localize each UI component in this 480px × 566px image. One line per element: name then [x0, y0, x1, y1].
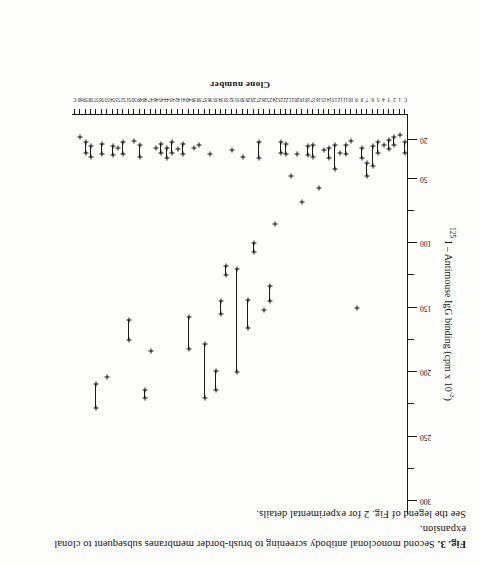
x-tick-label: 58	[89, 97, 94, 103]
y-tick-label: 100	[420, 239, 446, 248]
plus-marker	[186, 314, 191, 319]
x-tick-label: 12	[338, 97, 343, 103]
x-tick	[95, 109, 96, 114]
plus-marker	[387, 146, 392, 151]
x-tick	[150, 109, 151, 114]
x-tick	[231, 109, 232, 114]
plus-marker	[213, 368, 218, 373]
x-tick-label: 20	[295, 97, 300, 103]
y-tick-label: 150	[420, 303, 446, 312]
plus-marker	[349, 139, 354, 144]
y-tick	[408, 436, 417, 437]
plus-marker	[110, 144, 115, 149]
plus-marker	[251, 250, 256, 255]
x-tick-label: 26	[262, 97, 267, 103]
x-tick-label: 48	[143, 97, 148, 103]
x-tick-label: C	[404, 97, 407, 103]
x-tick	[350, 109, 351, 114]
y-tick	[408, 139, 417, 140]
plus-marker	[311, 154, 316, 159]
x-tick-label: 60	[78, 97, 83, 103]
x-tick-label: 49	[137, 97, 142, 103]
plus-marker	[235, 370, 240, 375]
y-tick-minor	[408, 210, 414, 211]
x-tick-label: 44	[164, 97, 169, 103]
x-axis-title: Clone number	[210, 80, 270, 90]
plus-marker	[392, 135, 397, 140]
x-tick	[339, 109, 340, 114]
x-tick	[296, 109, 297, 114]
plus-marker	[392, 142, 397, 147]
y-axis-title: 125 I – Antimouse IgG binding (cpm x 10-…	[443, 227, 456, 401]
x-tick-label: 7	[366, 97, 368, 103]
y-tick-label: 50	[420, 174, 446, 183]
plus-marker	[284, 141, 289, 146]
x-tick-label: 22	[284, 97, 289, 103]
x-tick	[139, 109, 140, 114]
plus-marker	[164, 145, 169, 150]
x-tick-label: 54	[110, 97, 115, 103]
x-tick	[388, 109, 389, 114]
plus-marker	[354, 305, 359, 310]
plus-marker	[159, 150, 164, 155]
x-tick-label: 47	[148, 97, 153, 103]
x-tick-label: 52	[121, 97, 126, 103]
plus-marker	[305, 144, 310, 149]
plus-marker	[137, 154, 142, 159]
caption-line-1: Second monoclonal antibody screening to …	[54, 524, 466, 550]
y-tick	[408, 178, 417, 179]
x-tick-label: 2	[393, 97, 395, 103]
duplicate-connector	[236, 269, 237, 372]
x-tick-label: 14	[327, 97, 332, 103]
scanned-page: Fig. 3. Second monoclonal antibody scree…	[0, 0, 480, 566]
x-tick	[312, 109, 313, 114]
plus-marker	[343, 152, 348, 157]
y-axis-title-suffix: )	[443, 398, 454, 401]
x-tick	[225, 109, 226, 114]
x-tick-label: 38	[197, 97, 202, 103]
x-tick	[128, 109, 129, 114]
plus-marker	[305, 153, 310, 158]
x-tick	[366, 109, 367, 114]
plus-marker	[370, 144, 375, 149]
y-tick	[408, 307, 417, 308]
x-tick-label: 39	[192, 97, 197, 103]
x-tick-label: 21	[289, 97, 294, 103]
x-tick	[204, 109, 205, 114]
y-axis-title-main: I – Antimouse IgG binding (cpm x 10	[443, 238, 454, 391]
duplicate-connector	[334, 145, 335, 170]
x-tick	[133, 109, 134, 114]
x-tick-label: 10	[349, 97, 354, 103]
x-tick-label: 28	[251, 97, 256, 103]
plus-marker	[332, 142, 337, 147]
x-tick-label: 27	[257, 97, 262, 103]
x-tick-label: C	[73, 97, 76, 103]
plus-marker	[170, 150, 175, 155]
x-tick-label: 6	[372, 97, 374, 103]
x-tick-label: 51	[127, 97, 132, 103]
x-tick-label: 50	[132, 97, 137, 103]
plus-marker	[397, 132, 402, 137]
x-tick	[377, 109, 378, 114]
plus-marker	[224, 273, 229, 278]
x-tick-label: 37	[202, 97, 207, 103]
plus-marker	[208, 152, 213, 157]
x-tick	[307, 109, 308, 114]
plus-marker	[110, 153, 115, 158]
x-tick	[393, 109, 394, 114]
plus-marker	[235, 266, 240, 271]
x-tick	[193, 109, 194, 114]
x-tick	[345, 109, 346, 114]
plus-marker	[338, 150, 343, 155]
x-tick-label: 57	[94, 97, 99, 103]
x-tick	[106, 109, 107, 114]
y-tick-label: 300	[420, 497, 446, 506]
y-axis-title-prefix: 125	[448, 227, 457, 238]
x-tick	[188, 109, 189, 114]
x-tick	[404, 109, 405, 114]
plus-marker	[175, 146, 180, 151]
x-tick	[160, 109, 161, 114]
x-tick	[171, 109, 172, 114]
x-tick-label: 29	[246, 97, 251, 103]
plus-marker	[105, 375, 110, 380]
